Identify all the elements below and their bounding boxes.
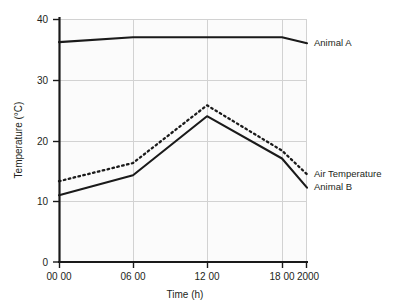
series-label-animal-b: Animal B: [314, 181, 352, 192]
xtick-label-2000: 2000: [297, 271, 320, 282]
ytick-label-0: 0: [42, 257, 48, 268]
series-label-animal-a: Animal A: [314, 37, 352, 48]
y-axis-ticks: [53, 20, 59, 263]
ytick-label-30: 30: [37, 75, 49, 86]
xtick-label-1800: 18 00: [269, 271, 294, 282]
ytick-label-10: 10: [37, 196, 49, 207]
ytick-label-20: 20: [37, 136, 49, 147]
chart-container: 40 30 20 10 0 00 00 06 00 12 00 18 00 20…: [0, 0, 398, 308]
temperature-line-chart: 40 30 20 10 0 00 00 06 00 12 00 18 00 20…: [0, 0, 398, 308]
y-axis-title: Temperature (°C): [13, 102, 24, 179]
series-label-air-temperature: Air Temperature: [314, 168, 381, 179]
xtick-label-0000: 00 00: [46, 271, 71, 282]
xtick-label-1200: 12 00: [194, 271, 219, 282]
xtick-label-0600: 06 00: [120, 271, 145, 282]
x-axis-title: Time (h): [167, 289, 204, 300]
ytick-label-40: 40: [37, 14, 49, 25]
plot-area-background: [59, 19, 307, 262]
